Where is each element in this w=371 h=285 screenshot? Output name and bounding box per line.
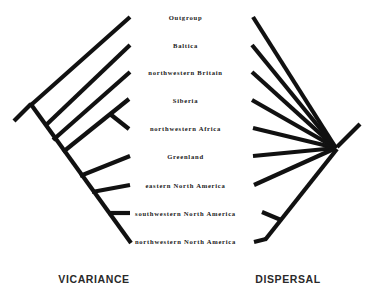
right-root-branch (337, 124, 360, 147)
right-tip-nw-north-america (254, 239, 266, 242)
left-tip-nw-africa (110, 114, 129, 129)
right-tree-dispersal (252, 17, 360, 242)
left-internal-siberia-africa (63, 99, 129, 152)
left-internal-greenland (80, 156, 130, 176)
right-tip-sw-north-america (262, 212, 281, 220)
left-tip-e-north-america (92, 185, 130, 192)
left-root-branch (14, 104, 31, 121)
panel-heading-dispersal: DISPERSAL (228, 273, 348, 285)
panel-heading-vicariance: VICARIANCE (34, 273, 154, 285)
left-tree-vicariance (14, 17, 131, 243)
